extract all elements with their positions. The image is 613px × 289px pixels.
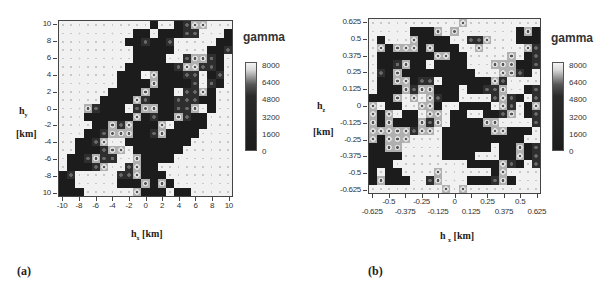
heatmap-cell bbox=[491, 27, 499, 35]
heatmap-cell bbox=[92, 54, 100, 62]
heatmap-cell bbox=[524, 77, 532, 85]
heatmap-cell bbox=[410, 185, 418, 193]
heatmap-cell bbox=[426, 52, 434, 60]
heatmap-cell bbox=[141, 121, 149, 129]
heatmap-cell bbox=[524, 19, 532, 27]
heatmap-cell bbox=[426, 77, 434, 85]
heatmap-cell bbox=[216, 129, 224, 137]
heatmap-cell bbox=[434, 44, 442, 52]
heatmap-cell bbox=[467, 52, 475, 60]
heatmap-cell bbox=[84, 163, 92, 171]
heatmap-cell bbox=[141, 138, 149, 146]
heatmap-cell bbox=[418, 77, 426, 85]
heatmap-cell bbox=[84, 29, 92, 37]
heatmap-cell bbox=[402, 127, 410, 135]
heatmap-cell bbox=[459, 118, 467, 126]
heatmap-cell bbox=[183, 79, 191, 87]
heatmap-cell bbox=[532, 85, 540, 93]
heatmap-cell bbox=[467, 69, 475, 77]
heatmap-cell bbox=[532, 176, 540, 184]
colorbar-tick-label: 0 bbox=[569, 147, 573, 156]
panel-label-a: (a) bbox=[17, 264, 31, 279]
heatmap-cell bbox=[174, 171, 182, 179]
heatmap-cell bbox=[158, 104, 166, 112]
heatmap-cell bbox=[191, 71, 199, 79]
heatmap-cell bbox=[450, 152, 458, 160]
heatmap-cell bbox=[532, 152, 540, 160]
heatmap-cell bbox=[377, 118, 385, 126]
heatmap-cell bbox=[442, 118, 450, 126]
heatmap-cell bbox=[150, 71, 158, 79]
heatmap-cell bbox=[59, 163, 67, 171]
heatmap-cell bbox=[183, 154, 191, 162]
heatmap-cell bbox=[92, 38, 100, 46]
heatmap-cell bbox=[393, 152, 401, 160]
heatmap-cell bbox=[532, 27, 540, 35]
heatmap-cell bbox=[442, 19, 450, 27]
heatmap-cell bbox=[117, 88, 125, 96]
heatmap-cell bbox=[475, 110, 483, 118]
heatmap-cell bbox=[377, 152, 385, 160]
heatmap-cell bbox=[377, 110, 385, 118]
heatmap-cell bbox=[75, 129, 83, 137]
heatmap-cell bbox=[434, 36, 442, 44]
heatmap-cell bbox=[108, 154, 116, 162]
heatmap-cell bbox=[442, 36, 450, 44]
heatmap-cell bbox=[393, 110, 401, 118]
heatmap-cell bbox=[191, 188, 199, 196]
x-tick-label: 0.25 bbox=[472, 197, 502, 206]
heatmap-cell bbox=[174, 104, 182, 112]
heatmap-cell bbox=[418, 85, 426, 93]
heatmap-cell bbox=[75, 163, 83, 171]
heatmap-cell bbox=[516, 143, 524, 151]
y-tick-label: 0 bbox=[21, 104, 51, 113]
heatmap-cell bbox=[393, 185, 401, 193]
heatmap-cell bbox=[418, 52, 426, 60]
y-tick-label: -0.5 bbox=[331, 168, 361, 177]
heatmap-cell bbox=[450, 77, 458, 85]
heatmap-cell bbox=[75, 188, 83, 196]
heatmap-cell bbox=[150, 63, 158, 71]
heatmap-cell bbox=[442, 152, 450, 160]
heatmap-cell bbox=[532, 60, 540, 68]
heatmap-cell bbox=[174, 188, 182, 196]
heatmap-cell bbox=[442, 135, 450, 143]
heatmap-cell bbox=[84, 63, 92, 71]
heatmap-cell bbox=[459, 60, 467, 68]
heatmap-cell bbox=[475, 77, 483, 85]
heatmap-cell bbox=[100, 54, 108, 62]
heatmap-cell bbox=[483, 36, 491, 44]
heatmap-cell bbox=[117, 71, 125, 79]
heatmap-cell bbox=[507, 44, 515, 52]
heatmap-cell bbox=[377, 102, 385, 110]
heatmap-cell bbox=[216, 29, 224, 37]
y-tick-label: -8 bbox=[21, 171, 51, 180]
heatmap-cell bbox=[158, 163, 166, 171]
panel-a: hy [km] 1086420-2-4-6-810 -10-8-6-4-2024… bbox=[0, 0, 300, 289]
heatmap-cell bbox=[100, 179, 108, 187]
heatmap-cell bbox=[125, 146, 133, 154]
heatmap-cell bbox=[224, 29, 232, 37]
heatmap-cell bbox=[516, 52, 524, 60]
colorbar-b bbox=[552, 62, 564, 151]
heatmap-cell bbox=[133, 21, 141, 29]
heatmap-cell bbox=[183, 46, 191, 54]
heatmap-cell bbox=[532, 52, 540, 60]
heatmap-cell bbox=[133, 104, 141, 112]
heatmap-cell bbox=[166, 79, 174, 87]
heatmap-cell bbox=[507, 160, 515, 168]
heatmap-cell bbox=[524, 176, 532, 184]
heatmap-cell bbox=[410, 152, 418, 160]
heatmap-cell bbox=[133, 129, 141, 137]
heatmap-cell bbox=[150, 96, 158, 104]
heatmap-cell bbox=[499, 127, 507, 135]
heatmap-cell bbox=[92, 46, 100, 54]
heatmap-cell bbox=[84, 154, 92, 162]
heatmap-cell bbox=[125, 138, 133, 146]
heatmap-cell bbox=[183, 138, 191, 146]
heatmap-cell bbox=[410, 19, 418, 27]
colorbar-tick-label: 3200 bbox=[569, 113, 587, 122]
heatmap-cell bbox=[67, 88, 75, 96]
heatmap-cell bbox=[199, 63, 207, 71]
heatmap-cell bbox=[84, 188, 92, 196]
